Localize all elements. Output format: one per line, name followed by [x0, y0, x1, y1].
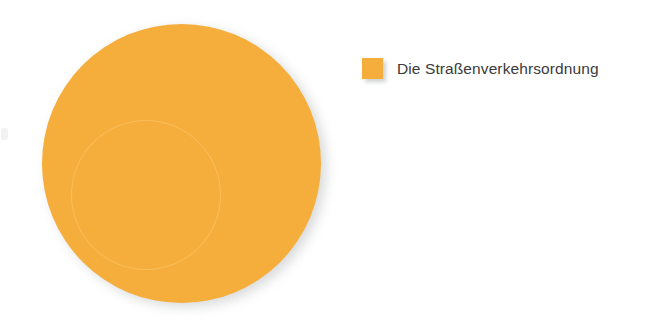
legend-swatch-icon: [362, 58, 383, 79]
pie-slice-die-strassenverkehrsordnung[interactable]: [42, 24, 321, 303]
pie-inner-ring-artifact: [71, 120, 221, 270]
chart-legend: Die Straßenverkehrsordnung: [362, 58, 599, 79]
legend-item[interactable]: Die Straßenverkehrsordnung: [362, 58, 599, 79]
paper-scan-artifact: [1, 128, 8, 140]
legend-item-label: Die Straßenverkehrsordnung: [397, 61, 599, 77]
pie-plot-area: [34, 16, 334, 316]
pie-chart-figure: Die Straßenverkehrsordnung: [0, 0, 661, 331]
